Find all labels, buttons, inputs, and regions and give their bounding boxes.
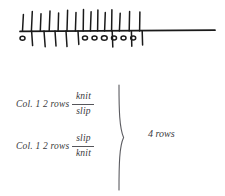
figure-canvas: Col. 1 2 rows knit slip Col. 1 2 rows sl…	[0, 0, 225, 196]
fraction-bar	[72, 104, 94, 105]
formula-row-1-lead: Col. 1 2 rows	[16, 99, 72, 109]
brace-label: 4 rows	[148, 128, 175, 139]
fraction-bar	[72, 146, 94, 147]
formula-row-1-numerator: knit	[73, 92, 94, 102]
stitch-diagram	[0, 0, 225, 72]
formula-row-2-numerator: slip	[73, 134, 94, 144]
formula-row-1-fraction: knit slip	[72, 92, 94, 117]
formula-row-1-denominator: slip	[73, 107, 94, 117]
formula-row-1: Col. 1 2 rows knit slip	[16, 92, 94, 117]
formula-row-2-lead: Col. 1 2 rows	[16, 141, 72, 151]
upward-ticks	[23, 10, 140, 31]
formula-row-2-fraction: slip knit	[72, 134, 94, 159]
formula-block: Col. 1 2 rows knit slip Col. 1 2 rows sl…	[0, 80, 225, 196]
grouping-brace-icon	[116, 84, 132, 192]
formula-row-2: Col. 1 2 rows slip knit	[16, 134, 94, 159]
formula-row-2-denominator: knit	[73, 149, 94, 159]
